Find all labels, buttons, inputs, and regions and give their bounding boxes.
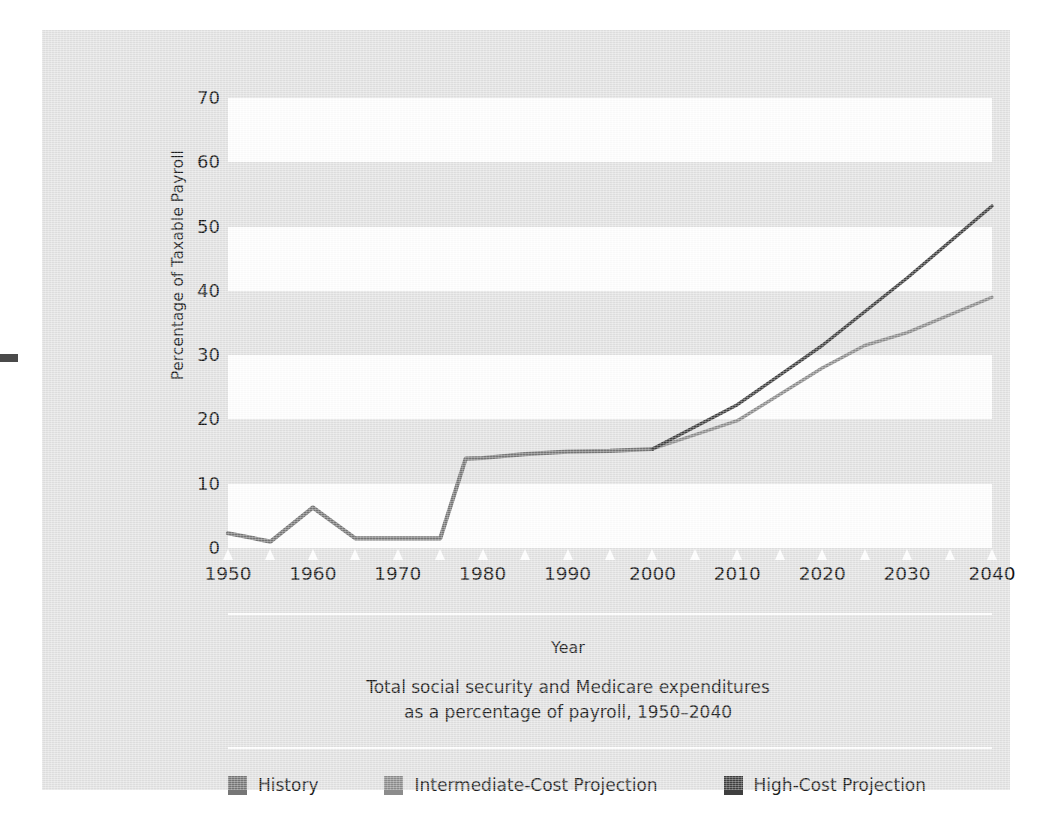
x-tick-mark	[520, 549, 530, 560]
x-tick-label: 2020	[777, 564, 867, 584]
plot-area	[228, 98, 992, 548]
y-tick-label: 40	[174, 282, 220, 300]
y-tick-label: 0	[174, 539, 220, 557]
chart-legend: HistoryIntermediate-Cost ProjectionHigh-…	[228, 772, 926, 798]
x-tick-mark	[350, 549, 360, 560]
y-tick-label: 20	[174, 410, 220, 428]
legend-label: History	[258, 775, 318, 795]
x-tick-label: 2030	[862, 564, 952, 584]
x-tick-label: 1960	[268, 564, 358, 584]
divider-above-legend	[228, 747, 992, 749]
x-tick-mark	[605, 549, 615, 560]
series-line	[652, 297, 992, 449]
series-line	[228, 449, 652, 542]
legend-swatch-icon	[228, 776, 247, 795]
x-tick-mark	[647, 549, 657, 560]
legend-item: High-Cost Projection	[724, 775, 926, 795]
x-tick-mark	[223, 549, 233, 560]
legend-swatch-icon	[384, 776, 403, 795]
legend-label: Intermediate-Cost Projection	[414, 775, 657, 795]
y-tick-label: 10	[174, 475, 220, 493]
series-line	[652, 206, 992, 449]
chart-lines	[228, 98, 992, 548]
x-tick-mark	[308, 549, 318, 560]
x-tick-label: 1970	[353, 564, 443, 584]
x-tick-label: 2010	[692, 564, 782, 584]
x-tick-label: 2040	[947, 564, 1037, 584]
x-tick-label: 2000	[607, 564, 697, 584]
legend-label: High-Cost Projection	[754, 775, 926, 795]
x-tick-mark	[393, 549, 403, 560]
legend-swatch-icon	[724, 776, 743, 795]
x-tick-mark	[690, 549, 700, 560]
figure-caption: Total social security and Medicare expen…	[84, 675, 1042, 724]
x-tick-mark	[902, 549, 912, 560]
y-tick-label: 30	[174, 346, 220, 364]
caption-line-2: as a percentage of payroll, 1950–2040	[84, 700, 1042, 725]
x-tick-mark	[987, 549, 997, 560]
x-tick-mark	[945, 549, 955, 560]
x-tick-mark	[563, 549, 573, 560]
divider-above-axis-title	[228, 613, 992, 615]
x-axis-tick-labels: 1950196019701980199020002010202020302040	[228, 564, 992, 592]
legend-item: Intermediate-Cost Projection	[384, 775, 657, 795]
x-axis-tick-marks	[228, 548, 992, 564]
x-tick-mark	[860, 549, 870, 560]
legend-item: History	[228, 775, 318, 795]
x-tick-mark	[775, 549, 785, 560]
y-tick-label: 50	[174, 218, 220, 236]
figure-panel: Percentage of Taxable Payroll 0102030405…	[42, 30, 1010, 790]
x-tick-label: 1990	[523, 564, 613, 584]
x-tick-mark	[435, 549, 445, 560]
caption-line-1: Total social security and Medicare expen…	[84, 675, 1042, 700]
x-tick-mark	[265, 549, 275, 560]
y-tick-label: 60	[174, 153, 220, 171]
x-tick-mark	[817, 549, 827, 560]
x-tick-mark	[732, 549, 742, 560]
y-tick-label: 70	[174, 89, 220, 107]
page-edge-mark	[0, 354, 18, 362]
x-tick-mark	[478, 549, 488, 560]
x-axis-title: Year	[84, 638, 1042, 657]
y-axis-tick-labels: 010203040506070	[162, 98, 220, 548]
x-tick-label: 1950	[183, 564, 273, 584]
x-tick-label: 1980	[438, 564, 528, 584]
